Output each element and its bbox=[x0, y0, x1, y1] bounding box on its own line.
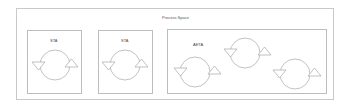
cycle-loop-icon bbox=[273, 59, 321, 89]
cycle-loop-icon bbox=[102, 50, 148, 80]
cycle-loops bbox=[0, 0, 351, 108]
cycle-loop-icon bbox=[174, 57, 221, 87]
cycle-loop-icon bbox=[224, 38, 271, 68]
cycle-loop-icon bbox=[32, 50, 78, 80]
